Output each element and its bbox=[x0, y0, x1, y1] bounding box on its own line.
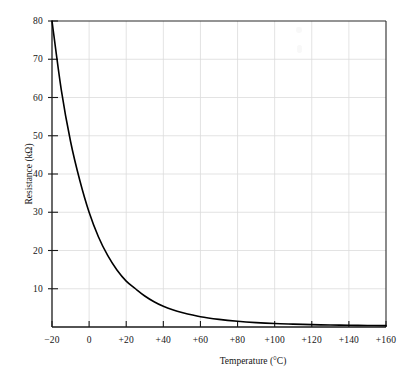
x-tick-label: +40 bbox=[156, 335, 171, 346]
horizontal-gridlines bbox=[52, 59, 386, 289]
x-tick-label: +160 bbox=[376, 335, 396, 346]
x-tick-label: +100 bbox=[264, 335, 284, 346]
y-tick-label: 80 bbox=[33, 16, 43, 27]
resistance-vs-temperature-chart bbox=[0, 0, 409, 380]
x-tick-label: +60 bbox=[193, 335, 208, 346]
y-tick-label: 40 bbox=[33, 169, 43, 180]
y-tick-label: 30 bbox=[33, 207, 43, 218]
chart-figure: −200+20+40+60+80+100+120+140+160 1020304… bbox=[0, 0, 409, 380]
x-tick-label: 0 bbox=[87, 335, 92, 346]
y-axis-title: Resistance (kΩ) bbox=[24, 143, 35, 204]
x-tick-label: −20 bbox=[44, 335, 59, 346]
y-tick-label: 10 bbox=[33, 283, 43, 294]
x-tick-label: +120 bbox=[302, 335, 322, 346]
y-tick-label: 60 bbox=[33, 92, 43, 103]
y-tick-label: 20 bbox=[33, 245, 43, 256]
x-tick-label: +140 bbox=[339, 335, 359, 346]
x-axis-title: Temperature (°C) bbox=[220, 356, 287, 367]
y-tick-label: 50 bbox=[33, 130, 43, 141]
x-axis-tick-marks bbox=[52, 321, 386, 327]
scan-artifact-secondary bbox=[297, 45, 302, 53]
y-tick-label: 70 bbox=[33, 54, 43, 65]
resistance-curve bbox=[52, 21, 386, 326]
x-tick-label: +20 bbox=[118, 335, 133, 346]
scan-artifact bbox=[296, 27, 302, 33]
x-tick-label: +80 bbox=[230, 335, 245, 346]
